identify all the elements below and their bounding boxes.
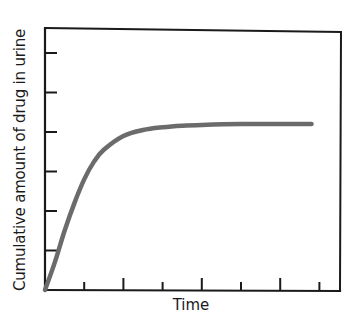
y-axis-ticks	[45, 53, 56, 251]
x-axis-label: Time	[173, 296, 210, 314]
chart-plot	[0, 0, 360, 328]
x-axis-line	[45, 290, 340, 291]
plot-frame	[45, 28, 341, 291]
frame-top-line	[45, 28, 341, 32]
frame-right-line	[340, 32, 341, 291]
y-axis-label: Cumulative amount of drug in urine	[11, 29, 29, 291]
x-axis-ticks	[84, 279, 319, 290]
data-curve	[45, 124, 312, 290]
